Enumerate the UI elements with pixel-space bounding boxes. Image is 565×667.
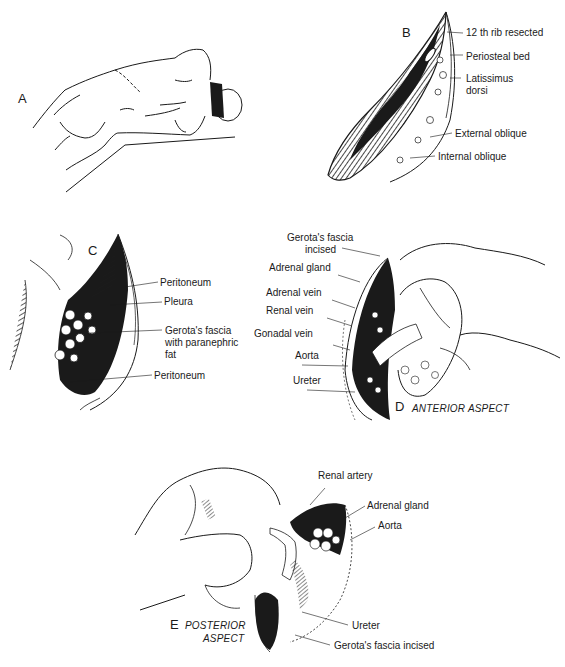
label-e-adrenal-gland: Adrenal gland xyxy=(367,500,429,511)
label-e-renal-artery: Renal artery xyxy=(318,470,372,481)
label-e-ureter: Ureter xyxy=(352,620,380,631)
panel-c: C Peritoneum Pleura Gerota's fascia with… xyxy=(0,220,250,440)
label-d-adrenal-gland: Adrenal gland xyxy=(269,262,331,273)
label-d-aorta: Aorta xyxy=(295,350,319,361)
label-d-renal-vein: Renal vein xyxy=(266,305,313,316)
label-periosteal-bed: Periosteal bed xyxy=(466,51,530,62)
label-gerota-fascia-line3: fat xyxy=(165,349,176,360)
panel-letter-e: E xyxy=(170,618,179,632)
label-d-gonadal-vein: Gonadal vein xyxy=(254,328,313,339)
label-d-adrenal-vein: Adrenal vein xyxy=(266,287,322,298)
posterior-aspect-illustration xyxy=(130,460,450,667)
label-peritoneum-bottom: Peritoneum xyxy=(154,370,205,381)
panel-e-aspect-caption-line1: POSTERIOR xyxy=(185,620,246,631)
label-d-ureter: Ureter xyxy=(293,375,321,386)
label-latissimus-dorsi-line2: dorsi xyxy=(466,85,488,96)
panel-letter-c: C xyxy=(88,244,97,258)
label-peritoneum-top: Peritoneum xyxy=(160,277,211,288)
label-d-gerota-fascia-line2: incised xyxy=(305,244,336,255)
panel-d: Gerota's fascia incised Adrenal gland Ad… xyxy=(260,220,565,450)
label-gerota-fascia-line2: with paranephric xyxy=(165,337,238,348)
label-latissimus-dorsi-line1: Latissimus xyxy=(466,73,513,84)
patient-position-illustration xyxy=(0,0,280,210)
label-d-gerota-fascia-line1: Gerota's fascia xyxy=(287,232,353,243)
label-internal-oblique: Internal oblique xyxy=(438,151,506,162)
panel-letter-a: A xyxy=(18,92,27,106)
panel-letter-d: D xyxy=(395,400,404,414)
panel-e-aspect-caption-line2: ASPECT xyxy=(203,633,244,644)
label-e-aorta: Aorta xyxy=(378,520,402,531)
panel-b: B 12 th rib resected Periosteal bed Lati… xyxy=(280,0,565,200)
label-external-oblique: External oblique xyxy=(455,128,527,139)
panel-a: A xyxy=(0,0,280,210)
panel-d-aspect-caption: ANTERIOR ASPECT xyxy=(412,403,509,414)
label-gerota-fascia-line1: Gerota's fascia xyxy=(165,325,231,336)
panel-e: Renal artery Adrenal gland Aorta Ureter … xyxy=(130,460,450,667)
label-pleura: Pleura xyxy=(164,296,193,307)
label-e-gerota-fascia-incised: Gerota's fascia incised xyxy=(334,640,434,651)
label-12th-rib-resected: 12 th rib resected xyxy=(466,27,543,38)
panel-letter-b: B xyxy=(402,26,411,40)
